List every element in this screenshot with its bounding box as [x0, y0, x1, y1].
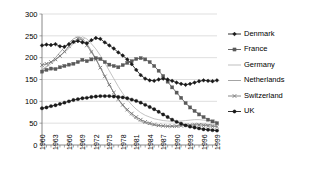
data-point — [45, 68, 48, 71]
data-point — [40, 70, 43, 73]
data-point — [233, 32, 237, 36]
data-point — [54, 42, 58, 46]
data-point — [211, 120, 214, 123]
data-point — [76, 60, 79, 63]
data-point — [188, 106, 191, 109]
legend-item-switzerland[interactable]: Switzerland — [228, 91, 283, 100]
data-point — [103, 94, 106, 97]
data-point — [175, 120, 178, 123]
data-point — [40, 107, 43, 110]
x-tick-label: 1993 — [187, 134, 194, 150]
y-tick-label: 300 — [25, 10, 38, 19]
x-tick-label: 1972 — [93, 134, 100, 150]
data-point — [63, 101, 66, 104]
data-point — [126, 61, 129, 64]
data-point — [202, 128, 205, 131]
legend-item-netherlands[interactable]: Netherlands — [228, 75, 285, 84]
y-tick-label: 100 — [25, 97, 38, 106]
data-point — [49, 104, 52, 107]
data-point — [148, 78, 152, 82]
data-point — [184, 101, 187, 104]
x-tick-label: 1987 — [160, 134, 167, 150]
series-france — [40, 57, 218, 125]
x-tick-label: 1978 — [120, 134, 127, 150]
data-point — [233, 48, 236, 51]
data-point — [206, 128, 209, 131]
data-point — [49, 67, 52, 70]
data-point — [193, 109, 196, 112]
x-tick-label: 1999 — [214, 134, 221, 150]
data-point — [233, 110, 236, 113]
data-point — [157, 78, 161, 82]
legend-item-germany[interactable]: Germany — [228, 60, 275, 69]
data-point — [157, 110, 160, 113]
legend-label: UK — [244, 106, 254, 115]
data-point — [99, 57, 102, 60]
data-point — [215, 122, 218, 125]
data-point — [121, 96, 124, 99]
data-point — [45, 43, 49, 47]
legend-item-denmark[interactable]: Denmark — [228, 29, 275, 38]
data-point — [215, 78, 219, 82]
data-point — [58, 66, 61, 69]
data-point — [130, 98, 133, 101]
data-point — [108, 83, 112, 87]
y-tick-label: 50 — [29, 119, 37, 128]
data-point — [49, 43, 53, 47]
series-line — [42, 37, 217, 127]
data-point — [121, 63, 124, 66]
data-point — [126, 97, 129, 100]
data-point — [58, 54, 62, 58]
data-point — [179, 122, 182, 125]
data-point — [135, 99, 138, 102]
x-tick-label: 1966 — [66, 134, 73, 150]
legend-item-france[interactable]: France — [228, 44, 267, 53]
data-point — [180, 96, 183, 99]
data-point — [67, 100, 70, 103]
data-point — [188, 125, 191, 128]
data-point — [63, 64, 66, 67]
x-tick-label: 1975 — [106, 134, 113, 150]
legend-label: Switzerland — [244, 91, 283, 100]
data-point — [90, 95, 93, 98]
x-tick-label: 1984 — [147, 134, 154, 150]
data-point — [157, 69, 160, 72]
y-tick-label: 0 — [33, 141, 37, 150]
data-point — [94, 57, 97, 60]
data-point — [112, 91, 116, 95]
data-point — [144, 58, 147, 61]
data-point — [197, 79, 201, 83]
data-point — [112, 64, 115, 67]
data-point — [117, 95, 120, 98]
data-point — [94, 36, 98, 40]
data-point — [148, 60, 151, 63]
data-point — [144, 103, 147, 106]
line-chart: 0501001502002503001960196319661969197219… — [0, 0, 309, 186]
data-point — [152, 107, 155, 110]
data-point — [85, 60, 88, 63]
data-point — [193, 81, 197, 85]
data-point — [184, 124, 187, 127]
data-point — [72, 62, 75, 65]
data-point — [197, 127, 200, 130]
legend-label: Netherlands — [244, 75, 285, 84]
series-netherlands — [42, 37, 217, 127]
data-point — [139, 101, 142, 104]
data-point — [161, 113, 164, 116]
x-tick-label: 1969 — [79, 134, 86, 150]
series-denmark — [40, 36, 219, 87]
x-tick-label: 1996 — [201, 134, 208, 150]
data-point — [99, 94, 102, 97]
data-point — [54, 67, 57, 70]
legend-label: Germany — [244, 60, 275, 69]
data-point — [211, 128, 214, 131]
legend-item-uk[interactable]: UK — [228, 106, 254, 115]
data-point — [117, 66, 120, 69]
data-point — [206, 118, 209, 121]
data-point — [175, 81, 179, 85]
data-point — [45, 106, 48, 109]
data-point — [72, 98, 75, 101]
data-point — [193, 126, 196, 129]
x-tick-label: 1990 — [174, 134, 181, 150]
data-point — [90, 58, 93, 61]
